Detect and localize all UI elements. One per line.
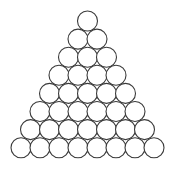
circle-r7-c3 (59, 120, 79, 140)
circle-r7-c6 (116, 120, 136, 140)
circle-r4-c4 (106, 65, 126, 85)
circle-r7-c5 (97, 120, 117, 140)
circle-r7-c4 (78, 120, 98, 140)
circle-r8-c8 (144, 138, 164, 158)
circle-r7-c1 (21, 120, 41, 140)
circle-r4-c2 (68, 65, 88, 85)
circle-r8-c5 (87, 138, 107, 158)
circle-r4-c3 (87, 65, 107, 85)
circle-r3-c2 (78, 47, 98, 67)
circle-r8-c1 (11, 138, 31, 158)
circle-r8-c3 (49, 138, 69, 158)
circle-r6-c4 (87, 102, 107, 122)
circle-r8-c7 (125, 138, 145, 158)
circle-r7-c7 (135, 120, 155, 140)
circle-group (11, 11, 164, 158)
circle-r6-c3 (68, 102, 88, 122)
circle-triangle-diagram (0, 0, 178, 170)
circle-r6-c5 (106, 102, 126, 122)
circle-r8-c4 (68, 138, 88, 158)
circle-r5-c3 (78, 83, 98, 103)
circle-r2-c1 (68, 29, 88, 49)
circle-r5-c2 (59, 83, 79, 103)
circle-r3-c3 (97, 47, 117, 67)
circle-r8-c2 (30, 138, 50, 158)
circle-r4-c1 (49, 65, 69, 85)
circle-r5-c1 (40, 83, 60, 103)
circle-r7-c2 (40, 120, 60, 140)
circle-r3-c1 (59, 47, 79, 67)
circle-r6-c1 (30, 102, 50, 122)
circle-r5-c4 (97, 83, 117, 103)
circle-r8-c6 (106, 138, 126, 158)
circle-r6-c2 (49, 102, 69, 122)
circle-r1-c1 (78, 11, 98, 31)
circle-r2-c2 (87, 29, 107, 49)
circle-r6-c6 (125, 102, 145, 122)
circle-r5-c5 (116, 83, 136, 103)
